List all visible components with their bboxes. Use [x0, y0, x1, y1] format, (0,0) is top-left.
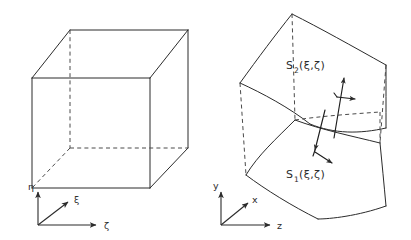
figure-canvas: η ξ ζ	[0, 0, 411, 240]
lower-surface-normal-arrow	[315, 110, 325, 150]
axis-label-eta: η	[28, 181, 34, 192]
cube-top-face	[32, 30, 188, 78]
vector-bundle-lower	[313, 110, 332, 163]
x-axis-line	[221, 203, 248, 225]
surface-label-s2-args: (ξ,ζ)	[299, 59, 325, 72]
surfaces-group	[240, 14, 386, 219]
surface-label-s1-args: (ξ,ζ)	[299, 168, 325, 181]
surface-label-s2: S 2 (ξ,ζ)	[286, 59, 325, 75]
upper-surface-tangent-arrow	[337, 97, 355, 99]
cube-front-face	[32, 78, 150, 188]
axis-label-zeta: ζ	[104, 220, 109, 231]
lower-surface-tangent-arrow	[315, 152, 332, 163]
right-axis-triad	[221, 192, 270, 225]
technical-figure: η ξ ζ	[0, 0, 411, 240]
axis-label-x: x	[252, 194, 258, 205]
cube-group	[32, 30, 188, 188]
surface-label-s1: S 1 (ξ,ζ)	[286, 168, 325, 184]
upper-surface-normal-arrow	[334, 78, 344, 138]
axis-label-xi: ξ	[74, 194, 79, 205]
left-axis-triad	[38, 192, 96, 225]
axis-label-y: y	[213, 180, 219, 191]
upper-surface-s2	[240, 14, 386, 132]
surface-label-s1-base: S	[286, 168, 293, 181]
cube-hidden-edges	[32, 30, 188, 188]
surface-label-s2-base: S	[286, 59, 293, 72]
lower-surface-s1	[240, 65, 386, 219]
xi-axis-line	[38, 202, 68, 225]
vector-bundle-upper	[334, 78, 355, 138]
axis-label-z: z	[277, 220, 282, 231]
